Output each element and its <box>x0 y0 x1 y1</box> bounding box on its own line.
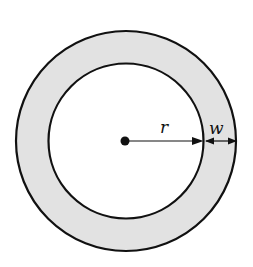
radius-label: r <box>160 117 169 137</box>
annulus-diagram: r w <box>0 0 253 267</box>
width-label: w <box>209 118 224 138</box>
